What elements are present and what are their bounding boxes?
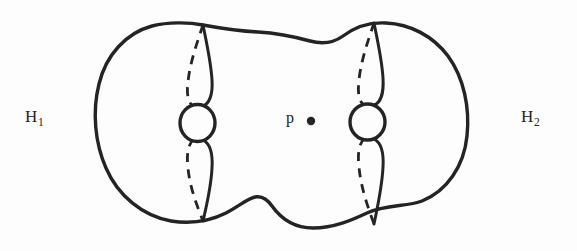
label-H1-subscript: 1	[38, 116, 44, 128]
left-back-lower-meridian	[187, 139, 203, 221]
right-back-upper-meridian	[358, 23, 374, 106]
label-H1: H1	[25, 108, 43, 125]
right-handle-circle	[350, 104, 385, 140]
left-back-upper-meridian	[187, 25, 203, 107]
right-front-upper-meridian	[374, 23, 383, 105]
point-p-marker	[307, 117, 315, 125]
surface-outline	[95, 23, 468, 228]
topology-figure: H1 H2 p	[0, 0, 577, 251]
right-front-lower-meridian	[374, 139, 383, 224]
label-H1-base: H	[25, 107, 37, 126]
label-H2-base: H	[521, 107, 533, 126]
label-point-p: p	[286, 110, 294, 126]
label-H2: H2	[521, 108, 539, 125]
left-handle-circle	[180, 105, 215, 142]
left-front-lower-meridian	[203, 140, 212, 221]
label-H2-subscript: 2	[534, 116, 540, 128]
left-front-upper-meridian	[203, 25, 212, 106]
